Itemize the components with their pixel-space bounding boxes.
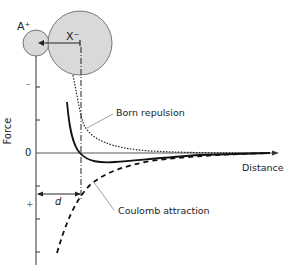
zero-label: 0 xyxy=(25,148,31,158)
coulomb-attraction-label: Coulomb attraction xyxy=(118,206,210,216)
y-axis-ticks xyxy=(36,87,40,252)
coulomb-attraction-curve xyxy=(57,153,270,253)
force-distance-diagram: A⁺ X⁻ – 0 + Force Distance Born repulsio… xyxy=(0,0,291,278)
anion-label: X⁻ xyxy=(66,31,79,42)
negative-sign: – xyxy=(26,80,31,89)
born-leader-line xyxy=(87,114,113,128)
x-axis-label: Distance xyxy=(242,163,284,173)
y-axis-label: Force xyxy=(3,117,13,144)
arrowhead-icon xyxy=(75,192,81,197)
cation-label: A⁺ xyxy=(17,21,30,32)
x-axis-arrow-icon xyxy=(272,151,279,156)
distance-d-label: d xyxy=(55,197,61,207)
coulomb-leader-line xyxy=(93,181,114,210)
diagram-svg xyxy=(0,0,291,278)
born-repulsion-label: Born repulsion xyxy=(116,108,185,118)
arrowhead-icon xyxy=(37,192,43,197)
positive-sign: + xyxy=(26,200,34,209)
